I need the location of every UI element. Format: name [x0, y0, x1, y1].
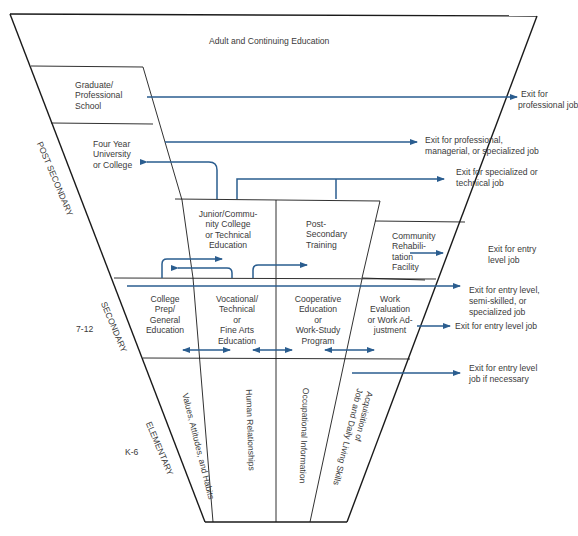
work-evaluation-box: Work Evaluation or Work Ad- justment — [365, 294, 415, 336]
exit-rehab-entry: Exit for entry level job — [488, 244, 536, 266]
graduate-school-box: Graduate/ Professional School — [75, 80, 122, 111]
junior-college-box: Junior/Commu- nity College or Technical … — [196, 209, 260, 251]
post-secondary-training-box: Post- Secondary Training — [306, 219, 347, 250]
exit-if-necessary: Exit for entry level job if necessary — [469, 363, 537, 385]
secondary-grades-label: 7-12 — [76, 324, 93, 334]
exit-work-eval-entry: Exit for entry level job — [455, 321, 537, 331]
cooperative-box: Cooperative Education or Work-Study Prog… — [288, 294, 348, 346]
community-rehab-box: Community Rehabili- tation Facility — [392, 231, 435, 273]
exit-professional: Exit for professional job — [521, 89, 578, 111]
exit-technical: Exit for specialized or technical job — [456, 167, 538, 189]
elementary-grades-label: K-6 — [125, 447, 138, 457]
vocational-box: Vocational/ Technical or Fine Arts Educa… — [209, 294, 265, 346]
adult-continuing-education-label: Adult and Continuing Education — [209, 36, 329, 46]
exit-semi-skilled: Exit for entry level, semi-skilled, or s… — [469, 285, 540, 318]
university-box: Four Year University or College — [93, 139, 129, 170]
college-prep-box: College Prep/ General Education — [141, 294, 189, 336]
exit-managerial: Exit for professional, managerial, or sp… — [425, 135, 539, 157]
